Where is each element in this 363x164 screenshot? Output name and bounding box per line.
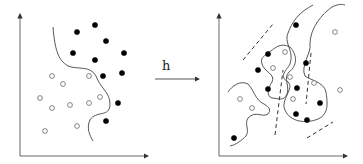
open-point: [312, 81, 317, 86]
filled-point: [265, 86, 270, 91]
filled-point: [92, 57, 97, 62]
mapping-label-h: h: [162, 58, 170, 73]
filled-point: [119, 70, 124, 75]
filled-point: [294, 85, 299, 90]
filled-point: [100, 73, 105, 78]
open-point: [75, 124, 80, 129]
filled-point: [103, 118, 108, 123]
open-point: [283, 50, 288, 55]
left-panel: [20, 14, 148, 156]
filled-point: [304, 117, 309, 122]
filled-point: [103, 38, 108, 43]
left-open-points: [38, 74, 103, 134]
filled-point: [303, 60, 308, 65]
filled-point: [255, 67, 260, 72]
diagram-canvas: [0, 0, 363, 164]
right-dashed-lines: [243, 24, 333, 138]
open-point: [50, 74, 55, 79]
open-point: [250, 106, 255, 111]
filled-point: [70, 50, 75, 55]
open-point: [68, 103, 73, 108]
filled-point: [265, 51, 270, 56]
open-point: [288, 75, 293, 80]
open-point: [291, 97, 296, 102]
right-panel: [219, 4, 347, 156]
open-point: [338, 88, 343, 93]
open-point: [87, 101, 92, 106]
open-point: [50, 106, 55, 111]
open-point: [38, 96, 43, 101]
open-point: [98, 95, 103, 100]
filled-point: [231, 135, 236, 140]
right-filled-points: [231, 22, 322, 140]
open-point: [271, 66, 276, 71]
filled-point: [317, 100, 322, 105]
open-point: [238, 97, 243, 102]
left-filled-points: [70, 22, 126, 123]
filled-point: [115, 100, 120, 105]
decision-boundary-curve: [283, 4, 345, 121]
filled-point: [74, 29, 79, 34]
right-decision-boundaries: [228, 4, 345, 146]
dashed-separator-line: [275, 70, 283, 135]
open-point: [43, 129, 48, 134]
filled-point: [293, 111, 298, 116]
dashed-separator-line: [307, 122, 333, 138]
open-point: [87, 74, 92, 79]
filled-point: [293, 22, 298, 27]
open-point: [61, 82, 66, 87]
open-point: [333, 30, 338, 35]
filled-point: [121, 50, 126, 55]
filled-point: [92, 22, 97, 27]
